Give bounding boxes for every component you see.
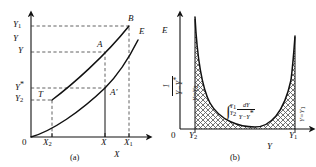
xtick-label-Y2: Y2	[189, 131, 197, 141]
xtick-label-Y1: Y1	[289, 131, 297, 141]
panel-b-y-axis-label: E	[162, 26, 168, 35]
expression-denominator: Y−Y*	[172, 76, 184, 96]
xtick-label-X2: X2	[43, 138, 52, 148]
point-label-A: A	[97, 40, 103, 49]
integral-numerator: dY	[237, 102, 255, 109]
curve-label-E: E	[139, 27, 145, 36]
integral-denominator: Y−Y*	[237, 109, 255, 120]
panel-a-origin-label: 0	[22, 138, 27, 147]
integral-limits: Y1 Y2	[230, 104, 236, 118]
panel-a-y-axis-label: Y	[13, 34, 18, 43]
panel-a: Y Y1 Y Y* Y2 0 X2 X X1 X B A A′ T E (a)	[0, 0, 158, 167]
panel-b-x-axis-label: Y	[267, 142, 272, 151]
point-label-T: T	[38, 90, 43, 99]
expression-numerator: 1	[163, 76, 171, 96]
integral-expression: ∫ Y1 Y2 dY Y−Y*	[226, 102, 255, 120]
ytick-label-Y2: Y2	[15, 94, 23, 104]
integral-lower-limit: Y2	[230, 111, 236, 118]
xtick-label-X1: X1	[124, 138, 133, 148]
integral-fraction: dY Y−Y*	[237, 102, 255, 120]
point-label-B: B	[128, 14, 134, 23]
ytick-label-Y: Y	[18, 46, 23, 55]
ytick-label-Ystar: Y*	[15, 81, 24, 92]
panel-b: E 1 Y−Y* Y=Y2 Y=Y1 ∫ Y1 Y2 dY Y−Y* 0 Y2	[158, 0, 316, 167]
equilibrium-curve	[31, 40, 138, 137]
point-label-A-prime: A′	[110, 88, 117, 97]
panel-a-caption: (a)	[70, 152, 79, 162]
ytick-label-Y1: Y1	[13, 20, 21, 30]
panel-b-origin-label: 0	[171, 131, 176, 140]
xtick-label-X: X	[101, 138, 107, 147]
panel-b-y-axis-expression: 1 Y−Y*	[163, 76, 183, 96]
boundary-label-left: Y=Y2	[191, 85, 199, 101]
panel-b-caption: (b)	[230, 152, 240, 162]
figure-root: Y Y1 Y Y* Y2 0 X2 X X1 X B A A′ T E (a)	[0, 0, 316, 167]
boundary-label-right: Y=Y1	[298, 106, 306, 122]
panel-a-x-axis-label: X	[114, 150, 120, 159]
